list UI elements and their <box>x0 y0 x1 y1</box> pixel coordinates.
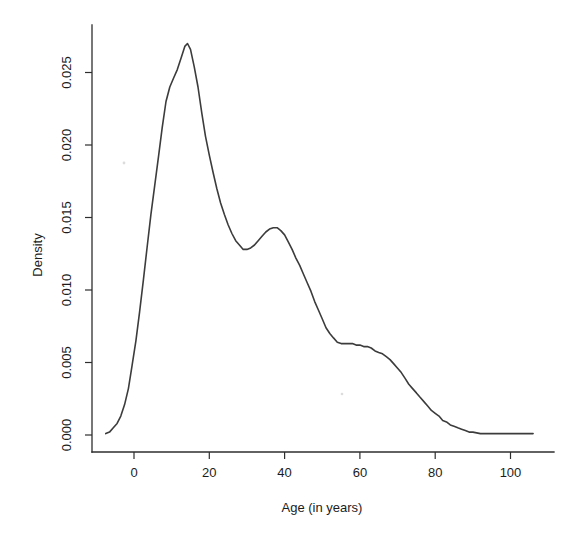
y-tick-label: 0.015 <box>59 201 74 234</box>
scan-speck <box>341 393 344 396</box>
x-tick-label: 60 <box>353 465 367 480</box>
x-tick-label: 80 <box>428 465 442 480</box>
y-axis-title: Density <box>30 233 45 277</box>
axes <box>92 25 554 452</box>
density-figure: 020406080100 0.0000.0050.0100.0150.0200.… <box>0 0 578 547</box>
x-tick-label: 0 <box>130 465 137 480</box>
x-axis-title: Age (in years) <box>282 500 363 515</box>
x-axis-ticks: 020406080100 <box>130 452 521 480</box>
x-tick-label: 20 <box>202 465 216 480</box>
y-tick-label: 0.000 <box>59 419 74 452</box>
y-tick-label: 0.020 <box>59 129 74 162</box>
y-axis-ticks: 0.0000.0050.0100.0150.0200.025 <box>59 56 92 451</box>
y-tick-label: 0.005 <box>59 346 74 379</box>
density-curve <box>106 44 533 434</box>
y-tick-label: 0.025 <box>59 56 74 89</box>
y-tick-label: 0.010 <box>59 274 74 307</box>
scan-speck <box>123 162 126 165</box>
x-tick-label: 100 <box>500 465 522 480</box>
density-plot-svg: 020406080100 0.0000.0050.0100.0150.0200.… <box>0 0 578 547</box>
x-tick-label: 40 <box>277 465 291 480</box>
